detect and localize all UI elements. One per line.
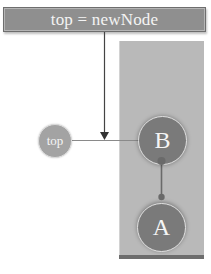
assignment-arrowhead-icon <box>100 132 109 140</box>
node-a-label: A <box>153 214 170 241</box>
top-pointer-label: top <box>47 133 64 149</box>
code-statement-text: top = newNode <box>51 10 159 30</box>
node-b-label: B <box>154 127 170 154</box>
node-a: A <box>137 203 186 252</box>
code-statement-box: top = newNode <box>3 7 206 32</box>
top-pointer-node: top <box>38 124 72 158</box>
node-b: B <box>138 116 187 165</box>
